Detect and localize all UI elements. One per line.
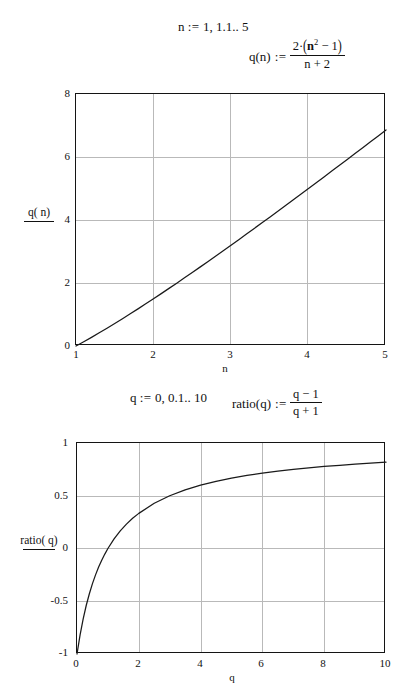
plot2-xtick-2: 2 <box>130 657 146 669</box>
numerator-remainder: − 1 <box>318 39 338 53</box>
function-q-assign-operator: := <box>275 50 287 63</box>
function-q-fraction: 2·(n2 − 1) n + 2 <box>290 39 345 71</box>
function-ratio-numerator: q − 1 <box>290 387 322 402</box>
numerator-open-paren: ( <box>303 37 307 57</box>
plot1-trace-label-text: q( n) <box>28 206 50 218</box>
numerator-coefficient: 2· <box>293 39 303 53</box>
plot1-ytick-8: 8 <box>56 87 70 99</box>
plot1-trace-label[interactable]: q( n) <box>18 206 60 222</box>
function-ratio-fraction: q − 1 q + 1 <box>290 387 322 419</box>
function-ratio-lhs: ratio(q) <box>232 397 271 410</box>
plot-ratio-of-q-frame[interactable] <box>76 442 385 653</box>
definition-function-q[interactable]: q(n) := 2·(n2 − 1) n + 2 <box>249 40 346 72</box>
function-ratio-assign-operator: := <box>275 397 287 410</box>
function-q-denominator: n + 2 <box>290 55 345 71</box>
plot2-ytick-1: 1 <box>42 436 68 448</box>
plot2-xaxis-label: q <box>222 671 242 683</box>
plot1-ytick-2: 2 <box>56 276 70 288</box>
plot2-trace-label-text: ratio( q) <box>20 534 57 546</box>
plot1-xtick-2: 2 <box>145 348 161 360</box>
plot1-xaxis-label: n <box>215 362 235 374</box>
range-q-rhs: 0, 0.1.. 10 <box>155 390 207 405</box>
plot1-xtick-3: 3 <box>222 348 238 360</box>
definition-range-n[interactable]: n := 1, 1.1.. 5 <box>178 20 248 33</box>
plot2-trace-label[interactable]: ratio( q) <box>8 534 70 550</box>
plot2-xtick-0: 0 <box>68 657 84 669</box>
plot2-ytick-neg0p5: -0.5 <box>42 594 68 606</box>
range-n-rhs: 1, 1.1.. 5 <box>203 19 249 34</box>
range-q-assign-operator: := <box>140 390 152 405</box>
plot-ratio-of-q-curve <box>77 443 386 654</box>
plot2-xtick-10: 10 <box>375 657 395 669</box>
range-n-assign-operator: := <box>188 19 200 34</box>
range-n-lhs: n <box>178 19 185 34</box>
plot1-xtick-5: 5 <box>377 348 393 360</box>
definition-range-q[interactable]: q := 0, 0.1.. 10 <box>130 391 207 404</box>
plot1-ytick-6: 6 <box>56 150 70 162</box>
definition-function-ratio[interactable]: ratio(q) := q − 1 q + 1 <box>232 388 323 420</box>
function-ratio-denominator: q + 1 <box>290 402 322 418</box>
numerator-base-variable: n <box>307 39 314 53</box>
plot-q-of-n-frame[interactable] <box>75 93 385 345</box>
numerator-close-paren: ) <box>338 37 342 57</box>
plot2-xtick-4: 4 <box>192 657 208 669</box>
plot1-xtick-1: 1 <box>68 348 84 360</box>
function-q-numerator: 2·(n2 − 1) <box>290 39 345 55</box>
plot2-xtick-6: 6 <box>253 657 269 669</box>
function-q-lhs: q(n) <box>249 50 271 63</box>
plot1-trace-color-swatch <box>24 221 54 222</box>
plot2-xtick-8: 8 <box>315 657 331 669</box>
plot2-ytick-neg1: -1 <box>42 646 68 658</box>
plot-q-of-n-curve <box>76 94 386 346</box>
plot2-ytick-0p5: 0.5 <box>42 489 68 501</box>
range-q-lhs: q <box>130 390 137 405</box>
plot1-xtick-4: 4 <box>299 348 315 360</box>
plot2-trace-color-swatch <box>23 549 55 550</box>
